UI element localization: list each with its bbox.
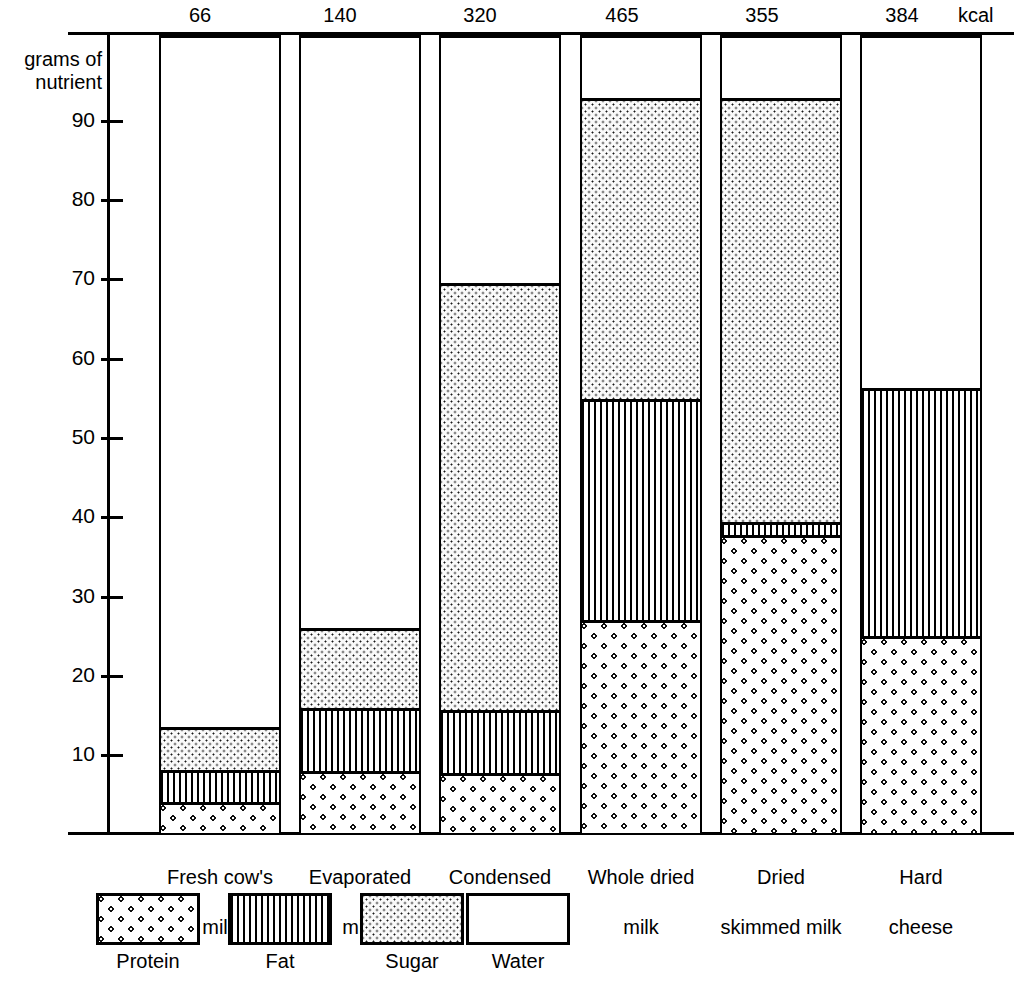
y-tick-label-10: 10 xyxy=(33,742,95,766)
segment-protein-4 xyxy=(722,535,840,833)
y-tick-90 xyxy=(101,120,123,123)
segment-water-2 xyxy=(441,35,559,283)
y-tick-40 xyxy=(101,516,123,519)
y-tick-label-40: 40 xyxy=(33,504,95,528)
segment-sugar-2 xyxy=(441,283,559,710)
legend-label-fat: Fat xyxy=(228,950,332,973)
kcal-axis: 66 140 320 465 355 384 kcal xyxy=(0,0,1014,30)
segment-fat-2 xyxy=(441,710,559,773)
segment-sugar-4 xyxy=(722,98,840,522)
legend-item-water: Water xyxy=(466,893,570,973)
category-label-0-line1: Fresh cow's xyxy=(140,865,300,890)
y-axis-title-line2: nutrient xyxy=(10,71,102,94)
category-label-2-line1: Condensed xyxy=(420,865,580,890)
legend-item-protein: Protein xyxy=(96,893,200,973)
segment-fat-4 xyxy=(722,522,840,535)
segment-protein-5 xyxy=(862,636,980,833)
bar-hard-cheese xyxy=(860,35,982,833)
legend-label-protein: Protein xyxy=(96,950,200,973)
kcal-unit-label: kcal xyxy=(958,4,994,27)
nutrient-composition-chart: 66 140 320 465 355 384 kcal grams of nut… xyxy=(0,0,1014,991)
segment-water-0 xyxy=(161,35,279,727)
segment-fat-5 xyxy=(862,388,980,636)
y-tick-label-80: 80 xyxy=(33,187,95,211)
segment-sugar-3 xyxy=(582,98,700,399)
y-axis-line xyxy=(107,32,110,835)
segment-water-5 xyxy=(862,35,980,388)
bar-fresh-cows-milk xyxy=(159,35,281,833)
y-tick-60 xyxy=(101,358,123,361)
segment-water-1 xyxy=(301,35,419,628)
segment-fat-3 xyxy=(582,399,700,620)
y-tick-label-90: 90 xyxy=(33,108,95,132)
category-label-5-line1: Hard xyxy=(841,865,1001,890)
segment-water-4 xyxy=(722,35,840,98)
bar-dried-skimmed-milk xyxy=(720,35,842,833)
legend-label-water: Water xyxy=(466,950,570,973)
y-tick-label-30: 30 xyxy=(33,584,95,608)
legend-item-fat: Fat xyxy=(228,893,332,973)
y-tick-label-20: 20 xyxy=(33,663,95,687)
segment-protein-0 xyxy=(161,802,279,833)
kcal-value-2: 320 xyxy=(430,4,530,27)
segment-fat-1 xyxy=(301,708,419,771)
y-tick-80 xyxy=(101,199,123,202)
kcal-value-3: 465 xyxy=(572,4,672,27)
segment-protein-3 xyxy=(582,620,700,833)
segment-sugar-0 xyxy=(161,727,279,770)
legend-swatch-water xyxy=(466,893,570,945)
y-tick-50 xyxy=(101,437,123,440)
y-axis-title: grams of nutrient xyxy=(10,48,102,94)
kcal-value-5: 384 xyxy=(852,4,952,27)
kcal-value-0: 66 xyxy=(150,4,250,27)
kcal-value-4: 355 xyxy=(712,4,812,27)
legend-label-sugar: Sugar xyxy=(360,950,464,973)
segment-fat-0 xyxy=(161,770,279,802)
y-tick-label-60: 60 xyxy=(33,346,95,370)
legend-swatch-fat xyxy=(228,893,332,945)
bar-condensed-milk xyxy=(439,35,561,833)
category-label-1-line1: Evaporated xyxy=(280,865,440,890)
y-tick-10 xyxy=(101,754,123,757)
chart-legend: Protein Fat Sugar Water xyxy=(0,893,1014,988)
y-tick-20 xyxy=(101,675,123,678)
legend-swatch-sugar xyxy=(360,893,464,945)
y-tick-label-50: 50 xyxy=(33,425,95,449)
segment-sugar-1 xyxy=(301,628,419,708)
segment-water-3 xyxy=(582,35,700,98)
y-tick-label-70: 70 xyxy=(33,266,95,290)
legend-swatch-protein xyxy=(96,893,200,945)
kcal-value-1: 140 xyxy=(290,4,390,27)
y-axis-title-line1: grams of xyxy=(10,48,102,71)
y-tick-30 xyxy=(101,596,123,599)
bar-evaporated-milk xyxy=(299,35,421,833)
segment-protein-2 xyxy=(441,773,559,833)
bar-whole-dried-milk xyxy=(580,35,702,833)
y-tick-70 xyxy=(101,278,123,281)
legend-item-sugar: Sugar xyxy=(360,893,464,973)
segment-protein-1 xyxy=(301,771,419,833)
